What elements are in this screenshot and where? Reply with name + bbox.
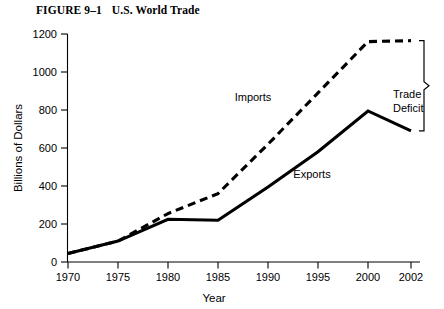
trade-deficit-bracket <box>419 41 429 131</box>
series-line-imports <box>68 41 411 254</box>
x-tick-label: 1995 <box>306 271 330 283</box>
trade-deficit-label-line2: Deficit <box>393 102 424 114</box>
series-line-exports <box>68 111 411 254</box>
y-tick-label: 400 <box>39 180 57 192</box>
figure-container: FIGURE 9–1U.S. World Trade 0 200 400 600… <box>0 0 444 309</box>
x-tick-label: 1975 <box>106 271 130 283</box>
y-tick-label: 1000 <box>33 66 57 78</box>
x-tick-label: 1970 <box>56 271 80 283</box>
x-tick-label: 1990 <box>256 271 280 283</box>
x-axis-ticks <box>68 262 411 269</box>
trade-line-chart: 0 200 400 600 800 1000 1200 1970 1975 19… <box>0 0 444 309</box>
x-axis-title: Year <box>202 292 225 304</box>
y-axis-title: Billions of Dollars <box>12 104 24 192</box>
y-axis-tick-labels: 0 200 400 600 800 1000 1200 <box>33 28 57 268</box>
x-tick-label: 1985 <box>206 271 230 283</box>
y-tick-label: 1200 <box>33 28 57 40</box>
series-label-imports: Imports <box>235 91 272 103</box>
series-label-exports: Exports <box>293 168 331 180</box>
y-tick-label: 0 <box>51 256 57 268</box>
x-tick-label: 2002 <box>399 271 423 283</box>
x-tick-label: 2000 <box>356 271 380 283</box>
x-tick-label: 1980 <box>156 271 180 283</box>
trade-deficit-label-line1: Trade <box>393 88 421 100</box>
y-tick-label: 800 <box>39 104 57 116</box>
x-axis-tick-labels: 1970 1975 1980 1985 1990 1995 2000 2002 <box>56 271 423 283</box>
y-axis-ticks <box>61 34 68 262</box>
y-tick-label: 600 <box>39 142 57 154</box>
y-tick-label: 200 <box>39 218 57 230</box>
